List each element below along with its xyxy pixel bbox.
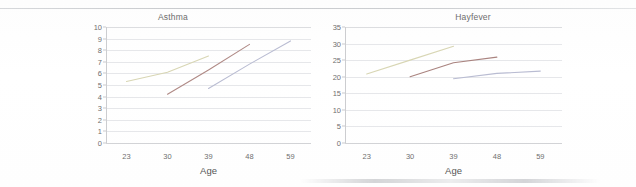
x-tick-label: 39 (204, 152, 212, 161)
y-tick-mark (103, 96, 106, 97)
y-tick-label: 20 (333, 72, 341, 81)
y-tick-mark (342, 43, 345, 44)
y-tick-label: 5 (98, 81, 102, 90)
y-tick-label: 25 (333, 56, 341, 65)
series-layer-asthma (106, 27, 311, 143)
y-tick-mark (342, 143, 345, 144)
x-tick-label: 30 (163, 152, 171, 161)
x-tick-label: 23 (122, 152, 130, 161)
y-tick-label: 7 (98, 57, 102, 66)
plot-area-asthma: Age 0123456789102330394859 (106, 27, 311, 143)
page-bottom-artifact (300, 179, 600, 183)
x-tick-label: 30 (406, 152, 414, 161)
y-tick-label: 4 (98, 92, 102, 101)
x-tick-label: 48 (245, 152, 253, 161)
y-tick-mark (103, 131, 106, 132)
series-line-cohort-2 (410, 57, 497, 77)
y-tick-label: 8 (98, 46, 102, 55)
y-tick-label: 3 (98, 104, 102, 113)
y-tick-mark (103, 143, 106, 144)
y-tick-label: 5 (337, 122, 341, 131)
x-tick-label: 48 (493, 152, 501, 161)
y-tick-label: 2 (98, 115, 102, 124)
x-tick-label: 59 (286, 152, 294, 161)
chart-title-hayfever: Hayfever (318, 12, 636, 22)
y-tick-label: 10 (333, 105, 341, 114)
y-tick-label: 10 (94, 23, 102, 32)
y-tick-label: 6 (98, 69, 102, 78)
x-tick-label: 39 (449, 152, 457, 161)
y-tick-mark (342, 76, 345, 77)
chart-title-asthma: Asthma (8, 12, 328, 22)
x-tick-label: 59 (536, 152, 544, 161)
page-top-rule (0, 8, 636, 9)
y-tick-label: 9 (98, 34, 102, 43)
y-tick-mark (103, 85, 106, 86)
series-layer-hayfever (345, 27, 562, 143)
y-tick-mark (103, 108, 106, 109)
x-axis-label-hayfever: Age (345, 165, 562, 176)
y-tick-label: 15 (333, 89, 341, 98)
gridline (345, 143, 562, 144)
y-tick-label: 0 (98, 139, 102, 148)
x-tick-label: 23 (363, 152, 371, 161)
y-tick-mark (342, 27, 345, 28)
y-tick-mark (103, 38, 106, 39)
series-line-cohort-3 (209, 41, 291, 89)
y-tick-mark (103, 27, 106, 28)
chart-hayfever: Hayfever Age 051015202530352330394859 (318, 10, 628, 182)
y-tick-label: 0 (337, 139, 341, 148)
y-tick-mark (342, 60, 345, 61)
gridline (106, 143, 311, 144)
document-page: Asthma Age 0123456789102330394859 Hayfev… (0, 0, 636, 187)
y-tick-mark (103, 61, 106, 62)
series-line-cohort-2 (168, 44, 250, 94)
x-axis-label-asthma: Age (106, 165, 311, 176)
series-line-cohort-1 (367, 46, 454, 74)
y-tick-mark (342, 126, 345, 127)
y-tick-label: 30 (333, 39, 341, 48)
y-tick-label: 35 (333, 23, 341, 32)
y-tick-mark (103, 50, 106, 51)
y-tick-mark (103, 73, 106, 74)
series-line-cohort-3 (454, 71, 541, 79)
chart-asthma: Asthma Age 0123456789102330394859 (8, 10, 318, 182)
y-tick-mark (342, 93, 345, 94)
y-tick-label: 1 (98, 127, 102, 136)
plot-area-hayfever: Age 051015202530352330394859 (345, 27, 562, 143)
y-tick-mark (103, 119, 106, 120)
y-tick-mark (342, 109, 345, 110)
